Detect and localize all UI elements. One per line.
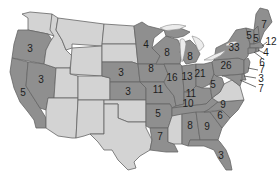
label-nc: 9 bbox=[220, 99, 226, 110]
label-ar: 5 bbox=[155, 108, 161, 119]
label-ne: 3 bbox=[118, 67, 124, 78]
label-or: 3 bbox=[27, 43, 33, 54]
state-wy[interactable] bbox=[70, 46, 102, 76]
label-oh: 21 bbox=[194, 68, 206, 79]
state-nm[interactable] bbox=[76, 100, 104, 138]
label-la: 7 bbox=[157, 131, 163, 142]
label-ma: 12 bbox=[265, 36, 277, 47]
label-nv: 3 bbox=[38, 74, 44, 85]
state-de[interactable] bbox=[242, 74, 246, 80]
state-nd[interactable] bbox=[102, 24, 136, 44]
leader-line-md bbox=[240, 80, 256, 87]
us-electoral-map: 3 3 5 3 3 4 8 11 5 7 8 16 8 13 21 11 10 … bbox=[0, 0, 277, 176]
state-co[interactable] bbox=[78, 76, 110, 100]
label-ia: 8 bbox=[148, 63, 154, 74]
label-mn: 4 bbox=[143, 39, 149, 50]
label-ca: 5 bbox=[20, 87, 26, 98]
label-in: 13 bbox=[181, 71, 193, 82]
label-sc: 6 bbox=[217, 110, 223, 121]
state-sd[interactable] bbox=[102, 44, 138, 64]
label-mo: 11 bbox=[153, 84, 164, 95]
leader-line-de bbox=[244, 76, 256, 78]
label-pa: 26 bbox=[220, 60, 232, 71]
label-vt: 5 bbox=[246, 30, 252, 41]
label-wi: 8 bbox=[164, 47, 170, 58]
label-tn: 10 bbox=[182, 98, 194, 109]
leader-line-nj bbox=[248, 68, 258, 70]
state-nj[interactable] bbox=[244, 58, 250, 74]
state-ct[interactable] bbox=[248, 48, 256, 54]
label-ny: 33 bbox=[228, 42, 240, 53]
label-wv: 5 bbox=[210, 79, 216, 90]
label-me: 7 bbox=[261, 19, 267, 30]
label-ks: 3 bbox=[125, 86, 131, 97]
label-ga: 9 bbox=[204, 121, 210, 132]
state-fl[interactable] bbox=[188, 140, 232, 170]
label-nh: 5 bbox=[253, 33, 259, 44]
label-al: 8 bbox=[187, 120, 193, 131]
state-az[interactable] bbox=[46, 98, 78, 138]
label-fl: 3 bbox=[218, 150, 224, 161]
label-md: 7 bbox=[258, 83, 264, 94]
label-il: 16 bbox=[166, 72, 178, 83]
label-mi: 8 bbox=[187, 51, 193, 62]
